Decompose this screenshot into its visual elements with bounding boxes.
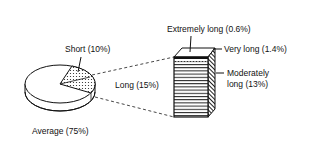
label-extremely-long: Extremely long (0.6%) [167, 24, 251, 34]
pie-chart [25, 57, 95, 111]
label-moderately-long-line1: Moderately [227, 68, 269, 78]
label-long: Long (15%) [115, 80, 159, 90]
bar-side-face [208, 48, 215, 117]
label-moderately-long-line2: long (13%) [227, 79, 268, 89]
label-average: Average (75%) [32, 126, 89, 136]
label-very-long: Very long (1.4%) [224, 44, 287, 54]
connector-bottom [95, 97, 174, 117]
bar-segment-moderately-long [174, 62, 208, 117]
bar-segment-very-long [174, 59, 208, 62]
breakdown-bar [174, 36, 224, 117]
label-short: Short (10%) [65, 44, 110, 54]
connector-top [92, 57, 174, 75]
